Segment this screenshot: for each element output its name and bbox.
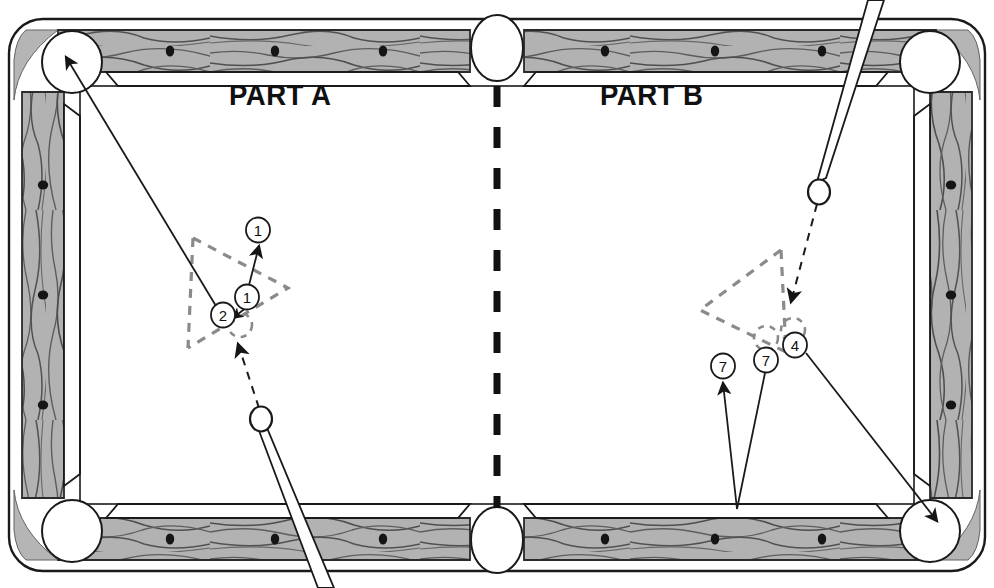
diamond-left-3	[38, 400, 48, 409]
cushion-right	[914, 104, 930, 486]
part-b-cue-ball[interactable]	[808, 180, 830, 205]
side-pocket-top[interactable]	[471, 15, 523, 81]
table-svg: 1 1 2 7	[0, 0, 994, 588]
diamond-top-4	[601, 45, 609, 56]
diamond-bottom-6	[818, 533, 826, 544]
cushion-top-right	[524, 72, 888, 86]
diamond-bottom-4	[601, 533, 609, 544]
diamond-top-5	[711, 45, 719, 56]
cushion-bottom-right	[524, 504, 888, 518]
rail-bottom-right	[524, 518, 936, 560]
diamond-bottom-1	[166, 533, 174, 544]
diamond-top-1	[166, 45, 174, 56]
ball-number: 2	[219, 307, 227, 324]
diamond-right-3	[946, 400, 956, 409]
part-a-ball-1-start[interactable]: 1	[235, 285, 259, 310]
corner-pocket-top-right[interactable]	[900, 31, 960, 93]
part-b-ball-7-rack[interactable]: 7	[754, 348, 778, 373]
ball-number: 1	[254, 222, 262, 239]
ball-number: 1	[243, 289, 251, 306]
part-b-label: PART B	[600, 78, 703, 112]
diamond-bottom-3	[379, 533, 387, 544]
part-a-label: PART A	[229, 78, 331, 112]
rail-top-right	[524, 30, 936, 72]
ball-number: 4	[791, 337, 799, 354]
diamond-left-1	[38, 180, 48, 189]
diamond-left-2	[38, 290, 48, 299]
pool-table-diagram: 1 1 2 7	[0, 0, 994, 588]
diamond-right-1	[946, 180, 956, 189]
diamond-top-6	[818, 45, 826, 56]
cushion-left	[64, 104, 80, 486]
part-a-ball-2[interactable]: 2	[211, 303, 235, 328]
diamond-top-2	[271, 45, 279, 56]
diamond-bottom-2	[271, 533, 279, 544]
ball-number: 7	[762, 352, 770, 369]
diamond-right-2	[946, 290, 956, 299]
rail-bottom-left	[58, 518, 470, 560]
part-a-cue-ball[interactable]	[250, 407, 272, 432]
part-b-ball-7-left[interactable]: 7	[711, 354, 735, 379]
ball-number: 7	[719, 358, 727, 375]
corner-pocket-bottom-left[interactable]	[42, 500, 102, 562]
side-pocket-bottom[interactable]	[471, 507, 523, 573]
part-b-ball-4[interactable]: 4	[783, 333, 807, 358]
rail-top-left	[58, 30, 470, 72]
part-a-ball-1-final[interactable]: 1	[246, 218, 270, 243]
corner-pocket-bottom-right[interactable]	[900, 500, 960, 562]
diamond-top-3	[379, 45, 387, 56]
corner-pocket-top-left[interactable]	[42, 31, 102, 93]
diamond-bottom-5	[711, 533, 719, 544]
